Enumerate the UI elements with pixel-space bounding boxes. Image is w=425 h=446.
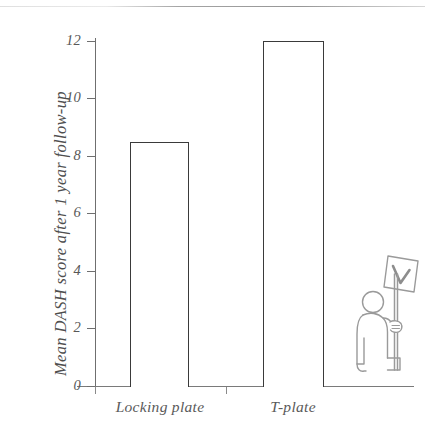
y-tick-label: 2 — [41, 320, 81, 335]
figure-torso-right — [363, 313, 388, 358]
x-tick-mark — [95, 387, 96, 394]
y-tick-mark — [87, 213, 95, 214]
y-tick-label: 8 — [41, 148, 81, 163]
y-tick-label: 10 — [41, 90, 81, 105]
y-tick-mark — [87, 41, 95, 42]
y-tick-mark — [87, 98, 95, 99]
bar-locking-plate[interactable] — [130, 142, 189, 387]
y-axis-line — [95, 38, 96, 387]
figure-foot — [357, 364, 366, 371]
figure-hand — [390, 321, 402, 333]
y-tick-label: 12 — [41, 33, 81, 48]
y-tick-label: 0 — [41, 378, 81, 393]
x-axis-line — [77, 386, 414, 387]
y-tick-label: 6 — [41, 205, 81, 220]
y-tick-label: 4 — [41, 263, 81, 278]
y-tick-mark — [87, 156, 95, 157]
x-category-label-locking-plate: Locking plate — [100, 398, 220, 416]
placard-board — [384, 256, 418, 292]
y-tick-mark — [87, 271, 95, 272]
x-tick-mark — [226, 387, 227, 394]
y-tick-mark — [87, 328, 95, 329]
bar-chart: Mean DASH score after 1 year follow-up 1… — [0, 0, 425, 446]
figure-torso-left — [357, 315, 364, 364]
figure-head — [363, 292, 384, 313]
x-category-label-t-plate: T-plate — [238, 398, 348, 416]
person-with-placard-illustration — [352, 252, 424, 382]
bar-t-plate[interactable] — [263, 41, 324, 387]
y-tick-mark — [87, 386, 95, 387]
